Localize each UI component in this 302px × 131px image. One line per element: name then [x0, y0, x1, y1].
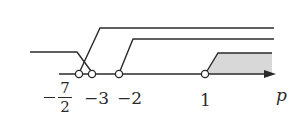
fraction-minus-sign	[44, 97, 55, 98]
shaded-solution-region	[205, 53, 272, 74]
fraction-numerator: 7	[58, 81, 72, 96]
label-minus-seven-halves: 7 2	[58, 81, 72, 115]
number-line-diagram: 7 2 −3 −2 1 p	[0, 0, 302, 131]
open-point-minus-three	[88, 70, 95, 77]
open-point-minus-seven-halves	[75, 70, 82, 77]
label-minus-three: −3	[84, 90, 109, 107]
label-one: 1	[200, 92, 211, 109]
diagram-graphics	[0, 0, 302, 131]
fraction-denominator: 2	[58, 100, 72, 115]
open-point-minus-two	[115, 70, 122, 77]
label-minus-two: −2	[117, 90, 142, 107]
axis-variable-label: p	[276, 87, 287, 104]
open-point-one	[201, 70, 208, 77]
